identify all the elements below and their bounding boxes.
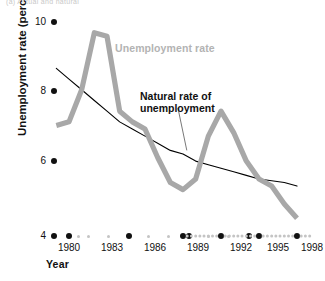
x-axis-dot-minor-1992-1 [228, 235, 231, 238]
x-axis-dot-minor-1989-0 [186, 235, 189, 238]
x-axis-dot-minor-1990-0 [198, 235, 201, 238]
natural-rate-series [56, 68, 297, 186]
natural-rate-label-line2: unemployment [140, 102, 215, 114]
series-label-natural-rate: Natural rate of unemployment [140, 90, 215, 114]
x-axis-dot-1996 [270, 235, 273, 238]
x-axis-dot-minor-1998-1 [304, 235, 307, 238]
x-axis-dot-1990 [194, 235, 197, 238]
x-axis-dot-1992 [218, 233, 224, 239]
x-axis-dot-minor-1993-1 [241, 235, 244, 238]
axis-dot-row [180, 233, 311, 239]
x-axis-dot-1994 [245, 235, 248, 238]
x-axis-dot-1995 [256, 233, 262, 239]
unemployment-rate-series [56, 33, 297, 218]
x-axis-dot-minor-1996-0 [274, 235, 277, 238]
x-axis-dot-minor-1995-1 [266, 235, 269, 238]
x-axis-dot-1998 [294, 233, 300, 239]
x-axis-dot-minor-1998-0 [300, 235, 303, 238]
x-axis-dot-minor-1989-1 [190, 235, 193, 238]
x-axis-dot-minor-1994-1 [253, 235, 256, 238]
x-axis-dot-1999 [308, 235, 311, 238]
x-axis-dot-minor-1991-1 [215, 235, 218, 238]
series-label-unemployment-rate: Unemployment rate [115, 42, 215, 54]
x-axis-dot-minor-1991-0 [211, 235, 214, 238]
x-axis-dot-minor-1990-1 [203, 235, 206, 238]
x-axis-dot-minor-1997-1 [291, 235, 294, 238]
x-axis-dot-minor-1995-0 [262, 235, 265, 238]
x-axis-dot-1989 [180, 233, 186, 239]
annotation-leader-line [178, 108, 187, 150]
x-axis-dot-minor-1996-1 [279, 235, 282, 238]
x-axis-dot-1997 [283, 235, 286, 238]
x-axis-dot-minor-1997-0 [287, 235, 290, 238]
x-axis-dot-minor-1994-0 [249, 235, 252, 238]
x-axis-dot-1991 [207, 235, 210, 238]
x-axis-dot-minor-1993-0 [236, 235, 239, 238]
natural-rate-label-line1: Natural rate of [140, 90, 211, 102]
x-axis-dot-1993 [232, 235, 235, 238]
chart-root: (a) Actual and natural Unemployment rate… [0, 0, 325, 281]
x-axis-dot-minor-1992-0 [224, 235, 227, 238]
